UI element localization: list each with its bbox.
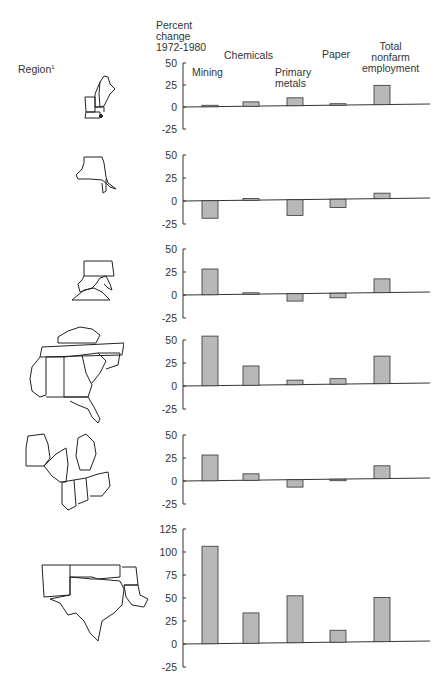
y-tick-label: 0	[171, 638, 177, 650]
y-tick-label: 75	[165, 569, 177, 581]
y-tick-label: 50	[165, 149, 177, 161]
bar-chart-panel: 1251007550250-25	[150, 523, 432, 677]
bar	[374, 85, 390, 104]
bar	[287, 596, 303, 643]
bar	[374, 466, 390, 479]
zero-baseline	[183, 641, 430, 644]
y-tick-label: 25	[165, 172, 177, 184]
zero-baseline	[183, 198, 430, 201]
y-title-line: 1972-1980	[156, 42, 206, 53]
y-axis-title: Percent change 1972-1980	[156, 20, 206, 53]
bar	[330, 199, 346, 207]
y-tick-label: 100	[159, 546, 177, 558]
bar	[202, 201, 218, 218]
y-tick-label: 50	[165, 243, 177, 255]
map-southeast-icon	[28, 325, 124, 423]
bar	[374, 598, 390, 642]
y-tick-label: 0	[171, 195, 177, 207]
y-tick-label: 50	[165, 429, 177, 441]
y-tick-label: 25	[165, 452, 177, 464]
y-tick-label: -25	[162, 498, 177, 510]
bar-chart-panel: 50250-25	[150, 243, 432, 328]
bar	[374, 356, 390, 384]
bar	[243, 102, 259, 106]
bar	[287, 294, 303, 301]
zero-baseline	[183, 292, 430, 295]
bar	[202, 455, 218, 481]
bar	[330, 104, 346, 106]
map-mid-atlantic-icon	[70, 258, 118, 303]
y-tick-label: 50	[165, 57, 177, 69]
bar	[287, 200, 303, 216]
bar	[243, 293, 259, 295]
bar	[330, 479, 346, 481]
bar	[202, 105, 218, 107]
zero-baseline	[183, 383, 430, 386]
bar	[330, 630, 346, 642]
zero-baseline	[183, 478, 430, 481]
y-tick-label: 25	[165, 615, 177, 627]
y-tick-label: 25	[165, 266, 177, 278]
bar	[202, 546, 218, 644]
y-tick-label: 25	[165, 79, 177, 91]
y-tick-label: 25	[165, 357, 177, 369]
region-label-text: Region	[18, 63, 51, 75]
y-tick-label: -25	[162, 661, 177, 673]
map-southwest-icon	[40, 555, 150, 645]
y-tick-label: 0	[171, 289, 177, 301]
bar	[287, 480, 303, 487]
bar	[374, 193, 390, 199]
bar	[374, 279, 390, 293]
bar	[202, 336, 218, 386]
bar-chart-panel: 50250-25	[150, 429, 432, 514]
region-label: Region1	[18, 63, 55, 75]
bar	[243, 198, 259, 200]
y-tick-label: 50	[165, 592, 177, 604]
y-tick-label: 0	[171, 101, 177, 113]
y-tick-label: -25	[162, 403, 177, 415]
y-tick-label: -25	[162, 123, 177, 135]
bar	[243, 613, 259, 643]
bar	[287, 380, 303, 385]
bar	[330, 293, 346, 298]
bar	[330, 379, 346, 385]
region-footnote: 1	[51, 64, 54, 70]
y-tick-label: 125	[159, 523, 177, 535]
map-new-england-icon	[82, 74, 118, 122]
y-tick-label: -25	[162, 218, 177, 230]
bar	[287, 98, 303, 106]
bar	[243, 474, 259, 480]
y-tick-label: 0	[171, 475, 177, 487]
bar	[202, 269, 218, 295]
map-great-lakes-icon	[22, 430, 118, 520]
y-tick-label: 0	[171, 380, 177, 392]
zero-baseline	[183, 104, 430, 107]
y-tick-label: 50	[165, 334, 177, 346]
bar-chart-panel: 50250-25	[150, 57, 432, 139]
bar-chart-panel: 50250-25	[150, 149, 432, 234]
bar	[243, 366, 259, 385]
map-new-york-icon	[72, 155, 122, 195]
bar-chart-panel: 50250-25	[150, 334, 432, 419]
y-tick-label: -25	[162, 312, 177, 324]
